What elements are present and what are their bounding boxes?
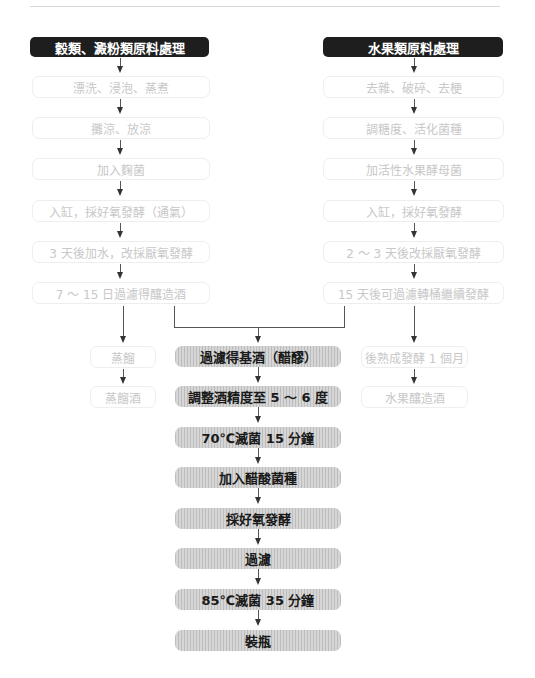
step-main-5: 採好氧發酵 — [175, 508, 341, 529]
arrow-down-icon — [411, 231, 417, 238]
arrow-down-icon — [117, 148, 123, 155]
connector — [258, 407, 259, 416]
connector — [258, 610, 259, 619]
connector — [344, 306, 345, 327]
arrow-down-icon — [255, 457, 261, 464]
step-main-3: 70℃滅菌 15 分鐘 — [175, 427, 341, 448]
step-fruit-6: 15 天後可過濾轉桶繼續發酵 — [323, 282, 504, 304]
connector — [414, 140, 415, 148]
connector — [120, 264, 121, 272]
arrow-down-icon — [120, 377, 126, 384]
connector-merge — [174, 327, 345, 328]
connector — [258, 367, 259, 376]
connector — [414, 223, 415, 231]
step-fruit-1: 去雜、破碎、去梗 — [323, 76, 504, 98]
arrow-down-icon — [117, 272, 123, 279]
arrow-down-icon — [411, 107, 417, 114]
connector — [414, 369, 415, 377]
header-fruit-processing: 水果類原料處理 — [323, 37, 503, 57]
connector — [120, 223, 121, 231]
step-grain-5: 3 天後加水，改採厭氧發酵 — [32, 241, 210, 263]
connector — [258, 327, 259, 336]
arrow-down-icon — [255, 578, 261, 585]
connector — [120, 140, 121, 148]
step-distill: 蒸餾 — [90, 346, 156, 368]
step-fruit-3: 加活性水果酵母菌 — [323, 158, 504, 180]
step-grain-4: 入缸，採好氧發酵（通氣） — [32, 200, 210, 222]
arrow-down-icon — [120, 336, 126, 343]
arrow-down-icon — [411, 377, 417, 384]
arrow-down-icon — [255, 497, 261, 504]
step-fruit-wine: 水果釀造酒 — [361, 386, 468, 408]
step-main-1: 過濾得基酒（醋醪） — [175, 346, 341, 367]
step-main-4: 加入醋酸菌種 — [175, 467, 341, 488]
step-grain-6: 7 ～ 15 日過濾得釀造酒 — [32, 282, 210, 304]
arrow-down-icon — [411, 66, 417, 73]
step-main-7: 85℃滅菌 35 分鐘 — [175, 589, 341, 610]
step-fruit-2: 調糖度、活化菌種 — [323, 117, 504, 139]
connector — [414, 306, 415, 336]
arrow-down-icon — [255, 619, 261, 626]
step-grain-2: 攤涼、放涼 — [32, 117, 210, 139]
connector — [258, 529, 259, 538]
connector — [123, 369, 124, 377]
connector — [258, 569, 259, 578]
connector — [123, 306, 124, 336]
arrow-down-icon — [411, 272, 417, 279]
step-distilled-liquor: 蒸餾酒 — [90, 386, 156, 408]
step-grain-3: 加入麴菌 — [32, 158, 210, 180]
arrow-down-icon — [117, 189, 123, 196]
connector — [258, 488, 259, 497]
connector — [258, 448, 259, 457]
connector — [120, 181, 121, 189]
step-post-fermentation: 後熟成發酵 1 個月 — [361, 346, 468, 368]
step-main-2: 調整酒精度至 5 ～ 6 度 — [175, 386, 341, 407]
arrow-down-icon — [255, 538, 261, 545]
connector — [414, 99, 415, 107]
connector — [414, 181, 415, 189]
step-fruit-5: 2 ～ 3 天後改採厭氧發酵 — [323, 241, 504, 263]
connector — [120, 99, 121, 107]
connector — [414, 264, 415, 272]
arrow-down-icon — [411, 189, 417, 196]
connector — [174, 306, 175, 327]
arrow-down-icon — [117, 66, 123, 73]
step-grain-1: 漂洗、浸泡、蒸煮 — [32, 76, 210, 98]
arrow-down-icon — [255, 376, 261, 383]
top-divider — [30, 6, 500, 7]
arrow-down-icon — [411, 148, 417, 155]
arrow-down-icon — [255, 336, 261, 343]
step-fruit-4: 入缸，採好氧發酵 — [323, 200, 504, 222]
step-main-8: 裝瓶 — [175, 630, 341, 651]
step-main-6: 過濾 — [175, 548, 341, 569]
header-grain-processing: 穀類、澱粉類原料處理 — [30, 37, 209, 57]
arrow-down-icon — [117, 107, 123, 114]
arrow-down-icon — [255, 416, 261, 423]
arrow-down-icon — [117, 231, 123, 238]
connector — [120, 58, 121, 66]
arrow-down-icon — [411, 336, 417, 343]
connector — [414, 58, 415, 66]
